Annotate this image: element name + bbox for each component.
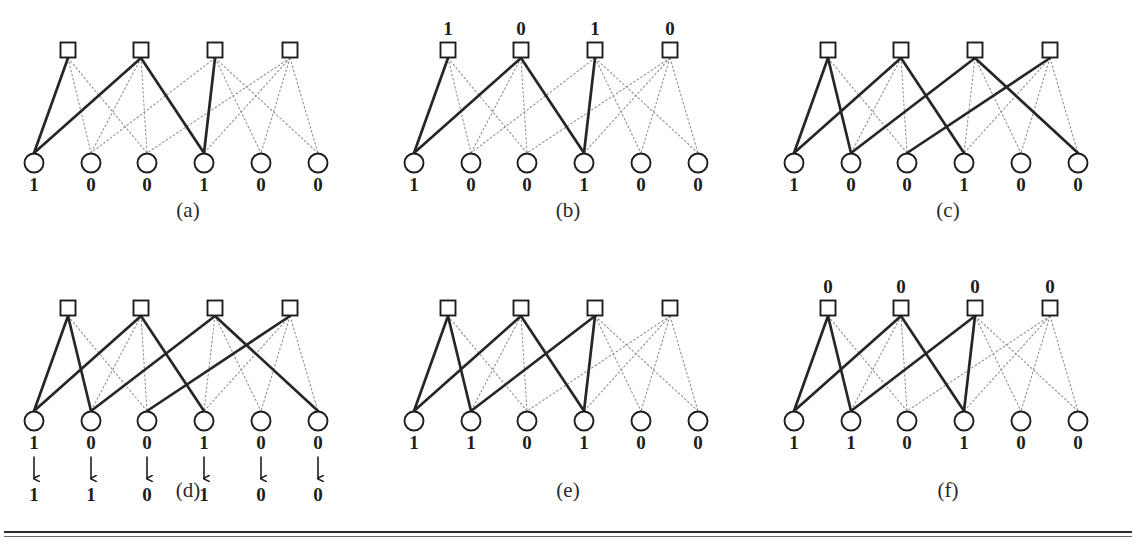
check-node-4 bbox=[663, 43, 678, 58]
variable-node-6 bbox=[689, 412, 708, 431]
check-nodes bbox=[441, 301, 678, 316]
check-node-4 bbox=[1043, 301, 1058, 316]
variable-node-3 bbox=[898, 154, 917, 173]
check-node-2 bbox=[134, 43, 149, 58]
variable-nodes: 110100 bbox=[785, 412, 1088, 453]
variable-label-2: 0 bbox=[466, 174, 476, 195]
panel-caption-d: (d) bbox=[0, 478, 376, 503]
edge-c2-v3-inactive bbox=[521, 58, 527, 153]
variable-label-4: 1 bbox=[959, 174, 969, 195]
edge-c4-v4-inactive bbox=[204, 58, 290, 153]
edge-c4-v3-inactive bbox=[147, 58, 290, 153]
edge-c1-v3-inactive bbox=[448, 58, 527, 153]
edge-c4-v4-inactive bbox=[584, 58, 670, 153]
edge-c3-v2-inactive bbox=[91, 58, 215, 153]
variable-label-2: 0 bbox=[86, 432, 96, 453]
variable-node-3 bbox=[898, 412, 917, 431]
edge-c4-v3-active bbox=[147, 316, 290, 411]
panel-caption-b: (b) bbox=[380, 198, 756, 223]
variable-label-1: 1 bbox=[409, 432, 419, 453]
variable-nodes: 100100 bbox=[785, 154, 1088, 195]
panel-f: 0000110100(f) bbox=[760, 258, 1136, 523]
variable-node-6 bbox=[689, 154, 708, 173]
check-node-2 bbox=[894, 43, 909, 58]
active-edges bbox=[414, 58, 595, 153]
check-nodes bbox=[61, 43, 298, 58]
panel-caption-c: (c) bbox=[760, 198, 1136, 223]
variable-node-5 bbox=[252, 412, 271, 431]
variable-node-5 bbox=[632, 154, 651, 173]
variable-label-5: 0 bbox=[636, 174, 646, 195]
check-label-2: 0 bbox=[516, 18, 526, 39]
variable-label-4: 1 bbox=[579, 432, 589, 453]
variable-node-1 bbox=[25, 412, 44, 431]
edge-c2-v3-inactive bbox=[141, 58, 147, 153]
variable-node-1 bbox=[785, 412, 804, 431]
variable-label-5: 0 bbox=[256, 174, 266, 195]
check-node-2 bbox=[514, 43, 529, 58]
edge-c3-v4-active bbox=[204, 58, 215, 153]
edge-c3-v2-active bbox=[851, 58, 975, 153]
variable-label-4: 1 bbox=[199, 174, 209, 195]
variable-label-2: 0 bbox=[846, 174, 856, 195]
variable-node-1 bbox=[25, 154, 44, 173]
check-nodes bbox=[61, 301, 298, 316]
edge-c4-v5-inactive bbox=[261, 58, 290, 153]
check-node-3 bbox=[968, 301, 983, 316]
variable-node-4 bbox=[195, 412, 214, 431]
active-edges bbox=[34, 58, 215, 153]
edge-c2-v4-active bbox=[141, 58, 204, 153]
variable-label-6: 0 bbox=[313, 174, 323, 195]
check-label-1: 0 bbox=[823, 276, 833, 297]
check-nodes: 0000 bbox=[821, 276, 1058, 316]
edge-c3-v4-active bbox=[964, 316, 975, 411]
check-nodes: 1010 bbox=[441, 18, 678, 58]
variable-node-5 bbox=[252, 154, 271, 173]
panel-a: 100100(a) bbox=[0, 0, 376, 265]
variable-node-4 bbox=[575, 154, 594, 173]
variable-node-6 bbox=[1069, 412, 1088, 431]
active-edges bbox=[794, 316, 975, 411]
edge-c3-v5-inactive bbox=[595, 58, 641, 153]
variable-node-2 bbox=[842, 412, 861, 431]
variable-label-6: 0 bbox=[1073, 174, 1083, 195]
panel-c: 100100(c) bbox=[760, 0, 1136, 265]
edge-c4-v4-inactive bbox=[584, 316, 670, 411]
edge-c2-v2-inactive bbox=[851, 58, 901, 153]
edge-c3-v5-inactive bbox=[595, 316, 641, 411]
panel-b: 1010100100(b) bbox=[380, 0, 756, 265]
edge-c4-v3-inactive bbox=[907, 316, 1050, 411]
check-node-3 bbox=[208, 43, 223, 58]
check-node-3 bbox=[588, 43, 603, 58]
edge-c2-v2-inactive bbox=[471, 316, 521, 411]
variable-label-4: 1 bbox=[199, 432, 209, 453]
variable-node-4 bbox=[955, 412, 974, 431]
variable-node-4 bbox=[195, 154, 214, 173]
check-node-4 bbox=[283, 43, 298, 58]
check-label-2: 0 bbox=[896, 276, 906, 297]
bottom-horizontal-rule-secondary bbox=[4, 536, 1132, 537]
variable-node-6 bbox=[309, 412, 328, 431]
variable-node-3 bbox=[138, 154, 157, 173]
check-node-4 bbox=[1043, 43, 1058, 58]
edge-c4-v6-inactive bbox=[670, 58, 698, 153]
variable-label-5: 0 bbox=[1016, 174, 1026, 195]
edge-c3-v6-inactive bbox=[595, 58, 698, 153]
check-node-1 bbox=[61, 301, 76, 316]
edge-c4-v5-inactive bbox=[641, 316, 670, 411]
variable-node-4 bbox=[955, 154, 974, 173]
variable-label-3: 0 bbox=[902, 432, 912, 453]
variable-node-3 bbox=[518, 412, 537, 431]
edge-c4-v3-inactive bbox=[527, 58, 670, 153]
edge-c3-v2-active bbox=[91, 316, 215, 411]
active-edges bbox=[414, 316, 595, 411]
edge-c3-v5-inactive bbox=[975, 316, 1021, 411]
check-node-1 bbox=[821, 43, 836, 58]
panel-e: 110100(e) bbox=[380, 258, 756, 523]
variable-label-5: 0 bbox=[636, 432, 646, 453]
edge-c3-v6-inactive bbox=[215, 58, 318, 153]
edge-c2-v2-inactive bbox=[851, 316, 901, 411]
variable-label-1: 1 bbox=[789, 174, 799, 195]
panel-d: 110100110000(d) bbox=[0, 258, 376, 523]
edge-c2-v3-inactive bbox=[521, 316, 527, 411]
